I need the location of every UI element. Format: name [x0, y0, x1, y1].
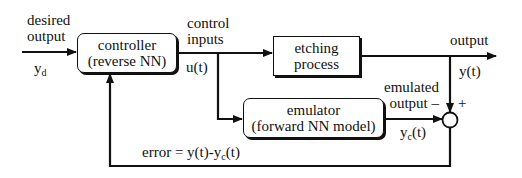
error-label: error = y(t)-yc(t) — [142, 144, 240, 162]
desired-output-label: desired output — [27, 12, 70, 44]
emulator-title: emulator — [287, 102, 340, 118]
controller-title: controller — [98, 37, 156, 53]
output-label: output — [450, 32, 488, 48]
connection-wires — [0, 0, 522, 178]
ut-label: u(t) — [186, 59, 208, 75]
emulator-block: emulator (forward NN model) — [243, 98, 384, 138]
emulated-output-label: emulated output – — [384, 79, 439, 111]
yc-label: yc(t) — [400, 124, 426, 142]
controller-subtitle: (reverse NN) — [88, 53, 167, 69]
summing-junction — [443, 113, 458, 128]
control-inputs-label: control inputs — [187, 15, 230, 47]
yd-label: yd — [34, 60, 47, 78]
plant-title: etching — [294, 40, 338, 56]
controller-block: controller (reverse NN) — [77, 33, 177, 73]
emulator-branch — [218, 53, 242, 119]
plant-subtitle: process — [294, 56, 339, 72]
block-diagram: controller (reverse NN) etching process … — [0, 0, 522, 178]
yt-label: y(t) — [459, 63, 481, 79]
plus-sign: + — [458, 95, 466, 111]
emulator-subtitle: (forward NN model) — [251, 118, 375, 134]
etching-process-block: etching process — [273, 36, 360, 76]
